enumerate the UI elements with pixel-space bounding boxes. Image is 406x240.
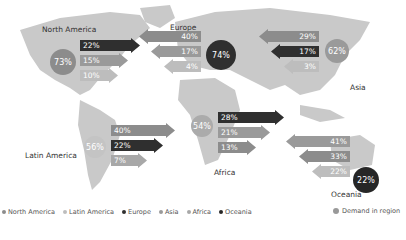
legend-dot-icon <box>2 210 6 214</box>
legend-dot-icon <box>63 210 67 214</box>
flow-value: 40% <box>114 125 131 136</box>
legend-label: Europe <box>128 208 151 216</box>
legend-label: North America <box>8 208 55 216</box>
flow-arrow-oceania-to-north-america: 33% <box>303 151 350 162</box>
flow-arrow-asia-to-north-america: 29% <box>263 31 319 42</box>
flow-value: 17% <box>181 46 198 57</box>
flow-value: 7% <box>114 155 126 166</box>
legend-dot-icon <box>219 210 223 214</box>
flow-arrow-asia-to-europe: 17% <box>275 46 319 57</box>
region-label-africa: Africa <box>214 169 235 177</box>
flow-value: 41% <box>330 136 347 147</box>
flow-arrow-asia-to-latin-america: 3% <box>288 61 319 72</box>
demand-circle-north-america: 73% <box>50 49 76 75</box>
flow-value: 28% <box>221 112 238 123</box>
flow-value: 22% <box>330 166 347 177</box>
flow-value: 21% <box>221 127 238 138</box>
flow-value: 13% <box>221 142 238 153</box>
flow-value: 33% <box>330 151 347 162</box>
legend-item-oceania: Oceania <box>219 208 252 216</box>
landmass-indonesia <box>300 105 345 122</box>
demand-dot-icon <box>333 208 339 214</box>
region-label-north-america: North America <box>42 26 96 34</box>
flow-arrow-oceania-to-asia: 41% <box>290 136 350 147</box>
demand-circle-europe: 74% <box>206 40 236 70</box>
demand-circle-asia: 62% <box>325 39 349 63</box>
flow-arrow-africa-to-asia: 21% <box>218 127 266 138</box>
flow-value: 4% <box>186 61 198 72</box>
legend-dot-icon <box>159 210 163 214</box>
flow-arrow-latin-america-to-africa: 7% <box>111 155 143 166</box>
flow-arrow-africa-to-europe: 28% <box>218 112 280 123</box>
legend-label: Latin America <box>69 208 114 216</box>
demand-circle-oceania: 22% <box>353 167 379 193</box>
flow-arrow-europe-to-africa: 4% <box>168 61 201 72</box>
demand-circle-africa: 54% <box>191 115 213 137</box>
region-label-oceania: Oceania <box>331 191 362 199</box>
legend-item-europe: Europe <box>122 208 151 216</box>
legend-demand: Demand in region <box>333 207 400 215</box>
flow-value: 22% <box>83 40 100 51</box>
flow-value: 3% <box>304 61 316 72</box>
flow-arrow-africa-to-north-america: 13% <box>218 142 252 153</box>
legend-label: Africa <box>193 208 212 216</box>
legend-item-north-america: North America <box>2 208 55 216</box>
region-label-latin-america: Latin America <box>25 152 77 160</box>
legend-demand-label: Demand in region <box>342 207 400 215</box>
legend-label: Asia <box>165 208 179 216</box>
flow-value: 15% <box>83 55 100 66</box>
demand-circle-latin-america: 56% <box>84 136 106 158</box>
legend-item-latin-america: Latin America <box>63 208 114 216</box>
flow-arrow-europe-to-north-america: 40% <box>143 31 201 42</box>
flow-value: 10% <box>83 70 100 81</box>
flow-value: 40% <box>181 31 198 42</box>
legend-dot-icon <box>187 210 191 214</box>
flow-value: 17% <box>299 46 316 57</box>
legend-item-africa: Africa <box>187 208 212 216</box>
legend-item-asia: Asia <box>159 208 179 216</box>
flow-arrow-north-america-to-asia: 15% <box>80 55 124 66</box>
flow-arrow-north-america-to-europe: 22% <box>80 40 136 51</box>
flow-arrow-europe-to-latin-america: 17% <box>155 46 201 57</box>
flow-value: 29% <box>299 31 316 42</box>
flow-value: 22% <box>114 140 131 151</box>
flow-arrow-latin-america-to-north-america: 40% <box>111 125 171 136</box>
legend-label: Oceania <box>225 208 252 216</box>
flow-arrow-north-america-to-latin-america: 10% <box>80 70 114 81</box>
legend: North AmericaLatin AmericaEuropeAsiaAfri… <box>2 208 252 216</box>
region-label-asia: Asia <box>350 84 366 92</box>
legend-dot-icon <box>122 210 126 214</box>
flow-arrow-latin-america-to-europe: 22% <box>111 140 159 151</box>
flow-arrow-oceania-to-europe: 22% <box>316 166 350 177</box>
